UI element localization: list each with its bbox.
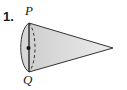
- cone-lateral-surface: [29, 23, 113, 72]
- cone-figure: [0, 0, 127, 90]
- base-center-dot: [27, 46, 31, 50]
